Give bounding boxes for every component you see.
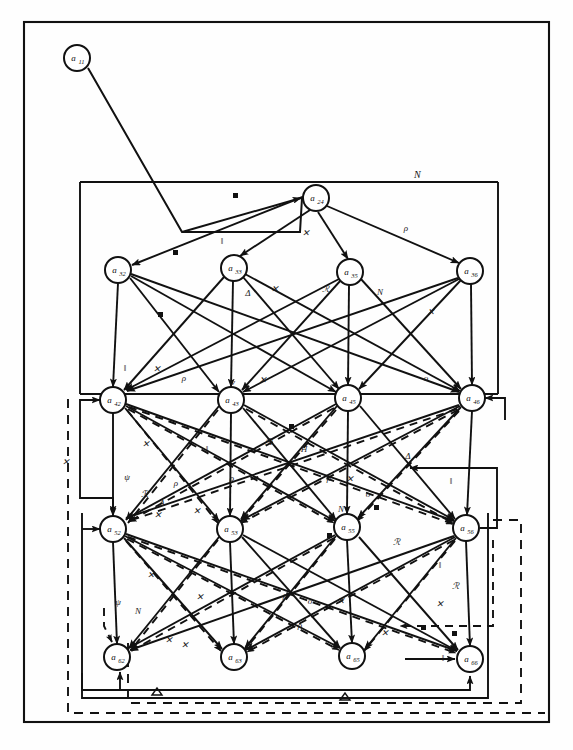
node-label: a [112, 265, 117, 275]
edge-a46-a56-vert [467, 411, 472, 515]
node-a35[interactable]: a35 [337, 259, 363, 285]
edge-label: ‖ [450, 476, 453, 486]
edge-label: ψ [115, 597, 121, 607]
dedge-a52-a66 [128, 537, 456, 653]
node-label: a [224, 524, 229, 534]
node-a66[interactable]: a66 [457, 646, 483, 672]
node-circle [334, 514, 360, 540]
node-circle [339, 643, 365, 669]
edge-label: ℛ [452, 581, 460, 591]
node-a45[interactable]: a45 [335, 385, 361, 411]
node-circle [100, 387, 126, 413]
node-a62[interactable]: a62 [104, 644, 130, 670]
dashed-frame-inner [128, 520, 521, 703]
node-a52[interactable]: a52 [100, 516, 126, 542]
node-a32[interactable]: a32 [105, 257, 131, 283]
dot-marker [327, 533, 332, 538]
node-a11[interactable]: a11 [64, 45, 90, 71]
node-label: a [460, 523, 465, 533]
node-circle [104, 644, 130, 670]
node-circle [303, 185, 329, 211]
frame-label-N: N [413, 169, 422, 180]
edge-a24-a35 [318, 212, 348, 259]
edge-label: ‖ [442, 653, 445, 663]
node-subscript: 66 [471, 659, 478, 666]
edge-label: ✕ [62, 457, 70, 467]
edge-label: ✕ [154, 510, 162, 520]
edge-a52-a62-vert [113, 542, 117, 644]
edge-label: Δ [404, 451, 410, 461]
node-a55[interactable]: a55 [334, 514, 360, 540]
edge-label: ‖ [439, 560, 442, 570]
edge-label: ✕ [196, 592, 204, 602]
edge-label: ο [424, 373, 429, 383]
edge-label: Ν [376, 287, 384, 297]
edge-label: ψ [124, 472, 130, 482]
edge-a36-a46 [471, 284, 472, 385]
node-label: a [228, 652, 233, 662]
node-a42[interactable]: a42 [100, 387, 126, 413]
edge-label: ‖ [221, 236, 224, 246]
edge-label: ✕ [142, 439, 150, 449]
node-label: a [71, 53, 76, 63]
edge-label: ✕ [302, 228, 310, 238]
edge-a24-a36 [327, 206, 459, 263]
edge-label: ρ [326, 473, 332, 483]
node-a56[interactable]: a56 [453, 515, 479, 541]
dedge-a56-feedback [400, 540, 493, 626]
node-a24[interactable]: a24 [303, 185, 329, 211]
node-label: a [225, 395, 230, 405]
node-subscript: 55 [348, 527, 355, 534]
inner-frame-upper [80, 182, 498, 394]
dot-marker [421, 625, 426, 630]
edge-a32-a42 [113, 283, 118, 387]
edge-label: ✕ [181, 640, 189, 650]
dot-marker [158, 312, 163, 317]
edge-label: ✕ [381, 628, 389, 638]
node-subscript: 35 [350, 272, 358, 279]
node-label: a [341, 522, 346, 532]
node-subscript: 56 [467, 528, 474, 535]
edge-label: ✕ [153, 364, 161, 374]
edge-label: ℛ [393, 537, 401, 547]
edge-a33-a42 [124, 277, 224, 390]
node-subscript: 42 [114, 400, 121, 407]
edge-a46-right-stub [485, 398, 505, 420]
node-a53[interactable]: a53 [217, 516, 243, 542]
dot-marker [374, 505, 379, 510]
node-a65[interactable]: a65 [339, 643, 365, 669]
node-group: a11a24a32a33a35a36a42a43a45a46a52a53a55a… [64, 45, 485, 672]
node-circle [221, 255, 247, 281]
node-label: a [107, 524, 112, 534]
edge-label: ✕ [427, 307, 435, 317]
node-subscript: 52 [114, 529, 121, 536]
outer-frame [24, 22, 549, 722]
node-a36[interactable]: a36 [457, 258, 483, 284]
edge-label: Ν [134, 606, 142, 616]
edge-label: ✕ [337, 596, 345, 606]
node-label: a [107, 395, 112, 405]
edge-label: ‖ [206, 444, 209, 454]
node-a43[interactable]: a43 [218, 387, 244, 413]
node-a63[interactable]: a63 [221, 644, 247, 670]
edge-label: ‖ [124, 363, 127, 373]
edge-label: ℛ [141, 489, 149, 499]
edge-label: ℛ [322, 284, 330, 294]
dashed-edge-group [104, 407, 493, 653]
node-a46[interactable]: a46 [459, 385, 485, 411]
edge-loop-a62-return [82, 673, 470, 690]
edge-a55-a63 [245, 536, 336, 648]
node-subscript: 33 [234, 268, 242, 275]
figure-canvas: ρ‖✕Δ✕ℛΝ✕‖✕ρ✕νο✕‖ℛΗρρΔ‖✕Νο✕ψℛρΔ✕✕ℛ‖✕ψΝ✕ρο… [0, 0, 573, 750]
edge-label: ✕ [193, 506, 201, 516]
edge-label: ο [366, 489, 371, 499]
edge-loop-a42-a52 [80, 400, 113, 514]
edge-label: ο [308, 596, 313, 606]
node-subscript: 36 [470, 271, 478, 278]
node-subscript: 45 [349, 398, 356, 405]
node-circle [221, 644, 247, 670]
edge-label: ✕ [147, 570, 155, 580]
edge-label: Η [300, 444, 308, 454]
node-label: a [466, 393, 471, 403]
node-a33[interactable]: a33 [221, 255, 247, 281]
